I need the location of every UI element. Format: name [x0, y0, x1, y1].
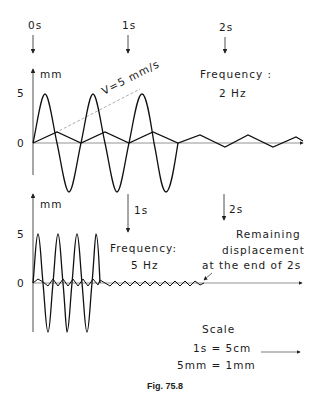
frequency-label-bottom: Frequency: [110, 242, 177, 254]
frequency-label-top: Frequency : [200, 68, 272, 80]
frequency-value-top: 2 Hz [219, 87, 246, 99]
annotation-line-1: Remaining [236, 228, 301, 240]
y-tick-5-top: 5 [17, 87, 25, 99]
top-panel: 0s 1s 2s mm 5 0 V=5 mm/s Frequency : 2 H… [17, 19, 303, 192]
velocity-line [55, 89, 140, 133]
annotation-line-3: at the end of 2s [202, 259, 301, 271]
zigzag-trace-bottom [33, 279, 204, 286]
time-marker-2s-bottom: 2s [229, 203, 243, 215]
time-marker-0s: 0s [28, 19, 42, 31]
time-marker-1s: 1s [122, 19, 136, 31]
figure-canvas: 0s 1s 2s mm 5 0 V=5 mm/s Frequency : 2 H… [0, 0, 334, 399]
scale-legend: Scale 1s = 5cm 5mm = 1mm [177, 323, 300, 371]
velocity-label: V=5 mm/s [99, 57, 161, 97]
y-unit-bottom: mm [40, 198, 62, 210]
figure-caption: Fig. 75.8 [147, 381, 183, 391]
y-tick-5-bottom: 5 [17, 228, 25, 240]
time-marker-1s-bottom: 1s [134, 204, 148, 216]
y-tick-0-bottom: 0 [17, 277, 25, 289]
scale-title: Scale [202, 323, 235, 335]
bottom-panel: mm 5 0 1s 2s Frequency: 5 Hz Remaining d… [17, 194, 305, 332]
time-marker-2s: 2s [219, 21, 233, 33]
annotation-arrow-icon [204, 273, 212, 280]
scale-line-2: 5mm = 1mm [177, 359, 256, 371]
y-tick-0-top: 0 [17, 137, 25, 149]
zigzag-trace-top [33, 132, 303, 147]
scale-line-1: 1s = 5cm [193, 342, 251, 354]
annotation-line-2: displacement [222, 244, 305, 256]
y-unit-top: mm [40, 68, 62, 80]
frequency-value-bottom: 5 Hz [131, 259, 158, 271]
